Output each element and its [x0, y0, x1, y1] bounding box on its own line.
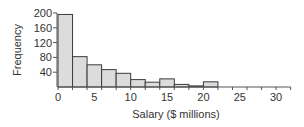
x-tick-label: 25 — [234, 91, 246, 103]
histogram-bar — [203, 82, 218, 87]
histogram-bar — [131, 80, 146, 87]
x-tick-label: 30 — [270, 91, 282, 103]
y-tick-label: 120 — [34, 37, 52, 49]
y-tick-label: 40 — [40, 66, 52, 78]
histogram-bar — [87, 65, 102, 87]
x-tick-label: 10 — [125, 91, 137, 103]
histogram-bar — [102, 70, 117, 87]
histogram-chart: 4080120160200 051015202530 Salary ($ mil… — [0, 0, 304, 127]
x-tick-label: 0 — [55, 91, 61, 103]
y-tick-label: 160 — [34, 22, 52, 34]
histogram-bar — [145, 82, 160, 87]
x-axis-title: Salary ($ millions) — [132, 108, 219, 120]
x-tick-label: 15 — [161, 91, 173, 103]
x-tick-label: 5 — [91, 91, 97, 103]
histogram-bar — [58, 14, 73, 87]
y-tick-label: 200 — [34, 7, 52, 19]
x-tick-label: 20 — [197, 91, 209, 103]
y-tick-label: 80 — [40, 51, 52, 63]
y-axis-title: Frequency — [11, 24, 23, 76]
y-axis: 4080120160200 — [34, 7, 57, 87]
histogram-bar — [73, 57, 88, 87]
histogram-bars — [58, 14, 218, 87]
histogram-bar — [116, 73, 131, 87]
x-axis: 051015202530 — [55, 87, 291, 103]
histogram-bar — [160, 79, 175, 87]
